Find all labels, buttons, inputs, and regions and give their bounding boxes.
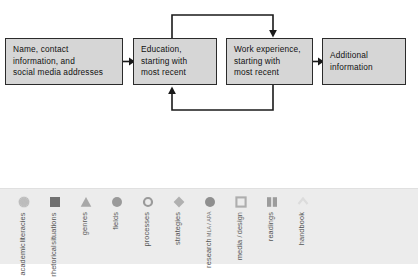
legend-item-handbook[interactable]: handbook <box>287 189 318 265</box>
legend-item-label: media /design <box>236 212 244 260</box>
legend-item-label-line: design <box>236 212 244 234</box>
flow-box-additional-line-1: Additional <box>330 50 399 62</box>
legend-item-label-line: strategies <box>174 212 182 245</box>
legend-item-label: rhetoricalsituations <box>50 212 58 277</box>
flow-box-additional-information: Additional information <box>322 38 406 85</box>
legend-item-media-design[interactable]: media /design <box>225 189 256 265</box>
legend-item-label: readings <box>267 212 275 241</box>
legend-item-label-line: readings <box>267 212 275 241</box>
flow-box-work-line-3: most recent <box>234 67 306 79</box>
resume-flowchart: Name, contact information, and social me… <box>0 0 418 132</box>
flow-box-name-contact: Name, contact information, and social me… <box>5 38 123 85</box>
flow-box-education-line-1: Education, <box>141 44 210 56</box>
legend-item-label-line: literacies <box>19 212 27 242</box>
legend-item-label-line: processes <box>143 212 151 247</box>
diamond-icon <box>173 196 185 208</box>
legend-item-sublabel: MLA / APA <box>205 212 213 237</box>
legend-item-list: academicliteraciesrhetoricalsituationsge… <box>8 189 318 264</box>
filled-circle-icon <box>111 196 123 208</box>
legend-item-fields[interactable]: fields <box>101 189 132 265</box>
hollow-square-icon <box>235 196 247 208</box>
legend-item-label-line: media / <box>236 235 244 260</box>
legend-item-label-line: fields <box>112 212 120 230</box>
flow-box-education-line-2: starting with <box>141 56 210 68</box>
flow-box-work-line-1: Work experience, <box>234 44 306 56</box>
legend-item-rhetorical-situations[interactable]: rhetoricalsituations <box>39 189 70 265</box>
flow-box-education-line-3: most recent <box>141 67 210 79</box>
legend-item-label: genres <box>81 212 89 235</box>
legend-item-label-line: research <box>205 238 213 268</box>
asterisk-icon <box>18 196 30 208</box>
legend-item-label-line: situations <box>50 212 58 244</box>
flow-box-work-experience: Work experience, starting with most rece… <box>226 38 313 85</box>
legend-item-label: fields <box>112 212 120 230</box>
filled-square-icon <box>49 196 61 208</box>
legend-item-label: processes <box>143 212 151 247</box>
legend-item-label-line: academic <box>19 243 27 275</box>
legend-item-label: researchMLA / APA <box>205 212 213 268</box>
chevron-icon <box>297 196 309 208</box>
legend-item-label-line: genres <box>81 212 89 235</box>
legend-item-academic-literacies[interactable]: academicliteracies <box>8 189 39 265</box>
flow-box-additional-line-2: information <box>330 62 399 74</box>
legend-item-label: academicliteracies <box>19 212 27 276</box>
legend-item-label-line: handbook <box>298 212 306 245</box>
legend-item-genres[interactable]: genres <box>70 189 101 265</box>
legend-item-strategies[interactable]: strategies <box>163 189 194 265</box>
legend-item-readings[interactable]: readings <box>256 189 287 265</box>
filled-circle-icon <box>204 196 216 208</box>
connector-education-to-work-top-loop <box>172 15 277 38</box>
legend-item-processes[interactable]: processes <box>132 189 163 265</box>
legend-bar: academicliteraciesrhetoricalsituationsge… <box>0 188 418 264</box>
flow-box-name-line-1: Name, contact <box>13 44 116 56</box>
legend-item-research[interactable]: researchMLA / APA <box>194 189 225 265</box>
triangle-icon <box>80 196 92 208</box>
legend-item-label: handbook <box>298 212 306 245</box>
hollow-circle-icon <box>142 196 154 208</box>
legend-item-label-line: rhetorical <box>50 245 58 276</box>
connector-work-to-education-bottom-loop <box>168 85 273 110</box>
flow-box-name-line-3: social media addresses <box>13 67 116 79</box>
legend-item-label: strategies <box>174 212 182 245</box>
flow-box-education: Education, starting with most recent <box>133 38 217 85</box>
book-icon <box>266 196 278 208</box>
flow-box-work-line-2: starting with <box>234 56 306 68</box>
flow-box-name-line-2: information, and <box>13 56 116 68</box>
